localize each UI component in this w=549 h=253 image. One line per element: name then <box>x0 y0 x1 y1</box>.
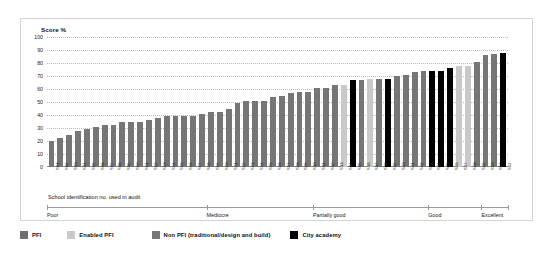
band-segment <box>428 207 481 208</box>
x-tick-slot: S16 <box>180 169 189 191</box>
bar[interactable] <box>412 72 418 167</box>
bar-slot <box>304 37 313 167</box>
bar[interactable] <box>288 93 294 167</box>
bar[interactable] <box>270 97 276 167</box>
bar-slot <box>339 37 348 167</box>
x-tick-slot: S40 <box>393 169 402 191</box>
bar-slot <box>375 37 384 167</box>
legend-item-city_academy[interactable]: City academy <box>290 231 341 239</box>
chart-panel: Score % 0102030405060708090100 S01S02S03… <box>20 18 533 221</box>
bar-slot <box>295 37 304 167</box>
x-tick-slot: S10 <box>127 169 136 191</box>
bar[interactable] <box>235 103 241 167</box>
bar-slot <box>136 37 145 167</box>
x-tick-slot: S01 <box>47 169 56 191</box>
bar-slot <box>127 37 136 167</box>
bar[interactable] <box>146 120 152 167</box>
bar[interactable] <box>102 125 108 167</box>
bar[interactable] <box>111 125 117 167</box>
bar[interactable] <box>199 114 205 167</box>
bar[interactable] <box>438 71 444 167</box>
bar[interactable] <box>447 68 453 167</box>
x-tick-slot: S30 <box>304 169 313 191</box>
bar[interactable] <box>137 122 143 168</box>
bar[interactable] <box>385 79 391 167</box>
x-tick-slot: S27 <box>277 169 286 191</box>
x-tick-slot: S39 <box>384 169 393 191</box>
x-tick-slot: S06 <box>91 169 100 191</box>
legend-item-enabled_pfi[interactable]: Enabled PFI <box>67 231 113 239</box>
x-tick-slot: S28 <box>286 169 295 191</box>
bar[interactable] <box>128 122 134 168</box>
bar[interactable] <box>429 71 435 167</box>
bar[interactable] <box>243 101 249 167</box>
x-axis-tick-label: S52 <box>507 162 512 170</box>
bar[interactable] <box>421 71 427 167</box>
bar[interactable] <box>217 112 223 167</box>
y-axis-title: Score % <box>41 26 66 33</box>
band-tick <box>481 205 482 210</box>
bar[interactable] <box>252 101 258 167</box>
band-segment <box>313 207 428 208</box>
bar[interactable] <box>367 79 373 167</box>
bar[interactable] <box>279 96 285 168</box>
bar[interactable] <box>341 85 347 167</box>
legend-item-non_pfi[interactable]: Non PFI (traditional/design and build) <box>152 231 271 239</box>
x-tick-slot: S13 <box>153 169 162 191</box>
bar[interactable] <box>332 85 338 167</box>
band-segment <box>47 207 207 208</box>
band-label: Mediocre <box>207 212 229 218</box>
bar[interactable] <box>483 55 489 167</box>
bar-slot <box>481 37 490 167</box>
bar[interactable] <box>350 80 356 167</box>
bar[interactable] <box>93 127 99 167</box>
bar[interactable] <box>376 79 382 167</box>
x-tick-slot: S50 <box>481 169 490 191</box>
bar[interactable] <box>297 92 303 167</box>
y-axis-tick-label: 0 <box>40 164 43 170</box>
bar-slot <box>260 37 269 167</box>
x-tick-slot: S35 <box>348 169 357 191</box>
bar[interactable] <box>359 80 365 167</box>
bar-slot <box>242 37 251 167</box>
bar-slot <box>463 37 472 167</box>
x-tick-slot: S20 <box>215 169 224 191</box>
bar[interactable] <box>474 62 480 167</box>
bar[interactable] <box>305 92 311 167</box>
x-axis-caption: School identification no. used in audit <box>48 194 140 200</box>
bar[interactable] <box>314 88 320 167</box>
bar[interactable] <box>173 116 179 167</box>
x-tick-slot: S19 <box>206 169 215 191</box>
bar[interactable] <box>323 88 329 167</box>
bar[interactable] <box>226 109 232 168</box>
bar[interactable] <box>164 116 170 167</box>
bar[interactable] <box>500 53 506 167</box>
bar[interactable] <box>190 116 196 167</box>
bar[interactable] <box>261 101 267 167</box>
x-tick-slot: S42 <box>410 169 419 191</box>
bar[interactable] <box>155 118 161 167</box>
band-label: Excellent <box>481 212 503 218</box>
x-tick-slot: S22 <box>233 169 242 191</box>
bar-slot <box>91 37 100 167</box>
band-label: Good <box>428 212 441 218</box>
bar[interactable] <box>465 66 471 167</box>
band-tick <box>47 205 48 210</box>
x-tick-slot: S02 <box>56 169 65 191</box>
x-tick-slot: S05 <box>82 169 91 191</box>
bar-slot <box>100 37 109 167</box>
bar[interactable] <box>491 54 497 167</box>
bar[interactable] <box>403 75 409 167</box>
bar[interactable] <box>181 116 187 167</box>
bar[interactable] <box>49 141 55 167</box>
bar[interactable] <box>208 112 214 167</box>
bar[interactable] <box>119 122 125 168</box>
legend-item-pfi[interactable]: PFI <box>20 231 41 239</box>
band-segment <box>207 207 313 208</box>
bar[interactable] <box>456 66 462 167</box>
bar-series <box>47 37 508 167</box>
bar-slot <box>56 37 65 167</box>
legend-label: PFI <box>32 232 41 238</box>
bar[interactable] <box>394 76 400 167</box>
x-tick-slot: S41 <box>401 169 410 191</box>
